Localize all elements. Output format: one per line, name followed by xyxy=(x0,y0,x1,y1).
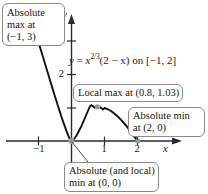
equation-factor: (2 − x) xyxy=(99,54,129,66)
equation-domain-word: on xyxy=(132,54,143,66)
x-axis-label: x xyxy=(163,142,168,154)
callout-local-max-line1: Local max at (0.8, 1.03) xyxy=(78,87,179,99)
point-absolute-and-local-min xyxy=(69,138,75,144)
x-tick-label-1: 1 xyxy=(96,143,112,154)
equation-equals: = xyxy=(77,54,83,66)
callout-absolute-max-line3: (−1, 3) xyxy=(7,31,61,43)
equation-annotation: y = x2/3(2 − x) on [−1, 2] xyxy=(69,52,176,66)
graph-figure: y = x2/3(2 − x) on [−1, 2] y x −1 1 2 3 … xyxy=(0,0,208,194)
point-local-max xyxy=(95,104,100,109)
leader-absolute-and-local-min xyxy=(72,142,89,163)
x-tick-label-minus1: −1 xyxy=(30,143,48,154)
y-tick-label-2: 2 xyxy=(52,68,64,79)
x-tick-label-2: 2 xyxy=(129,143,145,154)
callout-absolute-and-local-min-line2: min at (0, 0) xyxy=(69,177,155,189)
callout-absolute-and-local-min-line1: Absolute (and local) xyxy=(69,165,155,177)
callout-absolute-max: Absolute max at (−1, 3) xyxy=(2,3,65,46)
callout-local-max: Local max at (0.8, 1.03) xyxy=(73,84,183,102)
callout-absolute-min: Absolute min at (2, 0) xyxy=(128,107,205,137)
equation-lhs: y xyxy=(69,54,74,66)
callout-absolute-min-line1: Absolute min xyxy=(133,110,201,122)
callout-absolute-and-local-min: Absolute (and local) min at (0, 0) xyxy=(64,162,159,192)
callout-absolute-min-line2: at (2, 0) xyxy=(133,122,201,134)
callout-absolute-max-line2: max at xyxy=(7,19,61,31)
callout-absolute-max-line1: Absolute xyxy=(7,7,61,19)
equation-interval: [−1, 2] xyxy=(146,54,176,66)
